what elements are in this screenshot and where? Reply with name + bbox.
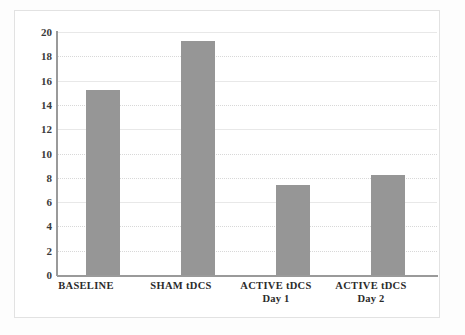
y-tick-label: 18 — [12, 51, 52, 62]
y-tick-label: 8 — [12, 173, 52, 184]
y-tick-label: 4 — [12, 221, 52, 232]
y-tick-label: 16 — [12, 76, 52, 87]
y-tick-label: 12 — [12, 124, 52, 135]
x-tick-label-sham-tdcs: SHAM tDCS — [126, 279, 236, 292]
x-axis-line — [57, 275, 438, 277]
x-tick-label-active-tdcs-day-1: ACTIVE tDCS Day 1 — [221, 279, 331, 305]
y-tick-label: 20 — [12, 27, 52, 38]
figure: 20 18 16 14 12 10 8 6 4 2 0 BASELINE SHA… — [0, 0, 465, 335]
x-label-line1: SHAM tDCS — [150, 280, 211, 291]
y-tick-label: 14 — [12, 100, 52, 111]
x-label-line1: ACTIVE tDCS — [335, 280, 406, 291]
y-tick-label: 10 — [12, 149, 52, 160]
x-label-line1: ACTIVE tDCS — [240, 280, 311, 291]
bar-series — [57, 32, 437, 275]
y-tick-label: 6 — [12, 197, 52, 208]
bar-active-tdcs-day-2 — [371, 175, 405, 275]
x-label-line2: Day 2 — [316, 292, 426, 305]
bar-baseline — [86, 90, 120, 275]
y-tick-label: 2 — [12, 246, 52, 257]
x-tick-label-baseline: BASELINE — [31, 279, 141, 292]
bar-active-tdcs-day-1 — [276, 185, 310, 275]
x-label-line2: Day 1 — [221, 292, 331, 305]
x-label-line1: BASELINE — [58, 280, 114, 291]
x-tick-label-active-tdcs-day-2: ACTIVE tDCS Day 2 — [316, 279, 426, 305]
bar-sham-tdcs — [181, 41, 215, 276]
